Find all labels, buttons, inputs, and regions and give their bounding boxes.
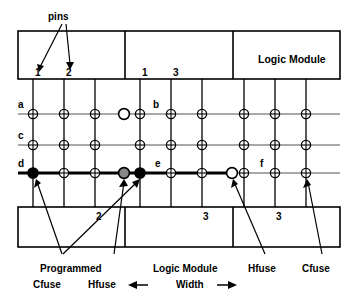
cfuse-d-2[interactable] [59,168,68,177]
cfuse-d-7[interactable] [270,168,279,177]
arrowhead-programmed-cfuse-right [132,179,140,188]
legend-hfuse-right: Hfuse [248,263,276,274]
segment-label-b: b [153,99,159,110]
cfuse-c-9[interactable] [301,140,310,149]
cfuse-a-2[interactable] [59,109,68,118]
width-arrow-right [217,281,237,289]
cfuse-c-7[interactable] [239,140,248,149]
bottom-legend: Programmed Cfuse Hfuse Logic Module Widt… [33,263,330,290]
arrowhead-programmed-cfuse-left [34,179,41,188]
cfuse-d-8[interactable] [301,168,310,177]
cfuse-d-4[interactable] [166,168,175,177]
programmed-hfuse-d[interactable] [119,168,130,179]
cfuse-a-4[interactable] [135,109,144,118]
legend-programmed-line1: Programmed [40,263,102,274]
routing-architecture-diagram: Logic Module 1 2 1 3 pins [0,0,355,303]
cfuse-a-9[interactable] [301,109,310,118]
vertical-pin-stubs-top [33,79,306,100]
cfuse-a-1[interactable] [28,109,37,118]
programmed-cfuse-d-1[interactable] [28,168,38,178]
segment-label-f: f [260,158,264,169]
cfuse-c-8[interactable] [270,140,279,149]
cfuse-c-6[interactable] [197,140,206,149]
pins-label: pins [48,11,69,22]
cfuse-d-3[interactable] [90,168,99,177]
cfuse-c-4[interactable] [135,140,144,149]
legend-programmed-line2: Cfuse [33,279,61,290]
bottom-module-outline [18,207,340,247]
width-arrow-left [128,281,148,289]
bottom-pin-label-3: 3 [276,211,282,222]
row-label-c: c [18,130,24,141]
legend-hfuse-left: Hfuse [88,279,116,290]
logic-module-label: Logic Module [258,53,326,65]
figure-canvas: Logic Module 1 2 1 3 pins [0,0,355,303]
cfuse-a-8[interactable] [270,109,279,118]
bottom-pin-label-2: 3 [203,211,209,222]
hfuse-d-open[interactable] [227,168,238,179]
row-label-d: d [18,158,24,169]
bottom-module-row: 2 3 3 [18,207,340,247]
top-pin-label-4: 3 [173,67,179,78]
cfuse-a-5[interactable] [166,109,175,118]
arrowhead-hfuse-right [231,179,238,188]
cfuse-a-3[interactable] [90,109,99,118]
cfuse-a-7[interactable] [239,109,248,118]
top-pin-label-2: 2 [66,67,72,78]
cfuse-c-1[interactable] [28,140,37,149]
top-module-row: Logic Module 1 2 1 3 [18,31,340,79]
legend-width-line2: Width [176,279,204,290]
top-pin-label-3: 1 [142,67,148,78]
hfuse-a-open[interactable] [119,109,130,120]
cfuse-d-6[interactable] [239,168,248,177]
row-label-a: a [18,99,24,110]
cfuse-c-2[interactable] [59,140,68,149]
segment-label-e: e [155,158,161,169]
cfuse-c-3[interactable] [90,140,99,149]
programmed-cfuse-d-2[interactable] [135,168,145,178]
arrowhead-cfuse-right [303,179,311,188]
legend-width-line1: Logic Module [153,263,218,274]
legend-cfuse-right: Cfuse [302,263,330,274]
cfuse-a-6[interactable] [197,109,206,118]
arrowhead-hfuse-left [119,179,128,187]
cfuse-c-5[interactable] [166,140,175,149]
cfuse-d-5[interactable] [197,168,206,177]
